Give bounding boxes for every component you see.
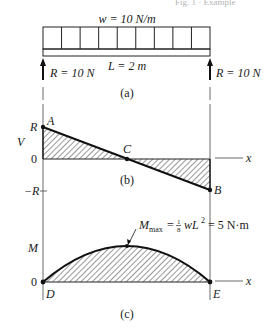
- caption-a: (a): [120, 86, 133, 100]
- point-e-marker: [208, 280, 213, 285]
- moment-tick-zero: 0: [31, 275, 37, 289]
- moment-x-label: x: [245, 274, 252, 288]
- svg-text:2: 2: [201, 216, 205, 225]
- left-reaction-arrow: [40, 58, 46, 80]
- moment-panel: x M 0 D E M max = 1 8 wL 2 = 5 N·m (c): [27, 212, 252, 321]
- load-dividers: [62, 27, 192, 49]
- svg-text:wL: wL: [184, 218, 199, 232]
- point-a-label: A: [46, 114, 55, 128]
- svg-text:max: max: [149, 225, 163, 234]
- point-c-marker: [125, 157, 129, 161]
- shear-panel: x R A V 0 C (b) −R B: [17, 104, 252, 212]
- shear-tick-r: R: [29, 120, 38, 134]
- point-b-label: B: [214, 183, 222, 197]
- svg-text:=: =: [167, 218, 174, 232]
- shear-x-label: x: [245, 151, 252, 165]
- caption-b: (b): [120, 173, 134, 187]
- right-reaction-arrow: [207, 58, 213, 80]
- svg-text:1: 1: [177, 218, 181, 226]
- svg-text:8: 8: [177, 226, 181, 234]
- right-reaction-label: R = 10 N: [215, 66, 261, 80]
- max-moment-annotation: M max = 1 8 wL 2 = 5 N·m: [138, 216, 249, 234]
- distributed-load-box: [43, 27, 210, 49]
- shear-axis-label: V: [17, 135, 26, 149]
- point-b-marker: [208, 188, 212, 192]
- max-moment-marker: [125, 244, 129, 248]
- load-label: w = 10 N/m: [98, 12, 155, 26]
- point-e-label: E: [212, 287, 221, 301]
- beam-body: [43, 49, 210, 56]
- svg-text:= 5 N·m: = 5 N·m: [208, 218, 249, 232]
- moment-axis-label: M: [27, 241, 39, 255]
- shear-tick-neg-r: −R: [24, 184, 40, 198]
- caption-c: (c): [120, 307, 133, 321]
- length-label: L = 2 m: [107, 59, 147, 73]
- header-partial-text: Fig. 1 · Example: [175, 0, 236, 7]
- point-a-marker: [41, 125, 45, 129]
- left-reaction-label: R = 10 N: [49, 66, 95, 80]
- point-c-label: C: [123, 142, 132, 156]
- point-d-label: D: [45, 287, 55, 301]
- shear-tick-zero: 0: [31, 152, 37, 166]
- beam-diagram-figure: Fig. 1 · Example w = 10 N/m L = 2 m R = …: [0, 0, 273, 334]
- point-d-marker: [41, 280, 46, 285]
- beam-panel: w = 10 N/m L = 2 m R = 10 N R = 10 N (a): [40, 12, 261, 100]
